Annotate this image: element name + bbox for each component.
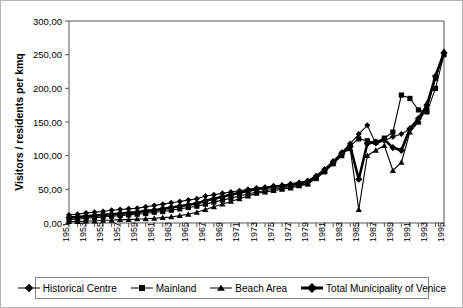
- legend-item-total-municipality: Total Municipality of Venice: [301, 283, 446, 294]
- diamond-marker-icon: [18, 283, 40, 293]
- x-axis-tick-label: 1955: [95, 222, 105, 242]
- x-axis-tick-label: 1989: [385, 222, 395, 242]
- triangle-marker-icon: [210, 283, 232, 293]
- x-axis-tick-label: 1977: [283, 222, 293, 242]
- x-axis-tick-label: 1979: [300, 222, 310, 242]
- x-axis-tick-label: 1993: [419, 222, 429, 242]
- chart-canvas: 0,0050,00100,00150,00200,00250,00300,001…: [1, 1, 463, 308]
- data-point-marker: [399, 92, 404, 97]
- chart-legend: Historical Centre Mainland Beach Area To…: [35, 277, 429, 299]
- legend-item-historical-centre: Historical Centre: [18, 283, 117, 294]
- thick-diamond-marker-icon: [301, 283, 323, 293]
- series-beach-area: [66, 48, 447, 224]
- x-axis-tick-label: 1965: [180, 222, 190, 242]
- y-axis-tick-label: 250,00: [33, 49, 62, 60]
- legend-label: Total Municipality of Venice: [326, 283, 446, 294]
- x-axis-tick-label: 1969: [214, 222, 224, 242]
- square-marker-icon: [131, 283, 153, 293]
- data-point-marker: [390, 130, 395, 135]
- x-axis-tick-label: 1961: [146, 222, 156, 242]
- x-axis-tick-label: 1985: [351, 222, 361, 242]
- x-axis-tick-label: 1951: [61, 222, 71, 242]
- x-axis-tick-label: 1967: [197, 222, 207, 242]
- legend-label: Beach Area: [235, 283, 287, 294]
- x-axis-tick-label: 1991: [402, 222, 412, 242]
- data-point-marker: [416, 107, 421, 112]
- y-axis-tick-label: 50,00: [38, 184, 62, 195]
- series-mainland: [66, 52, 446, 222]
- y-axis-tick-label: 300,00: [33, 16, 62, 27]
- data-point-marker: [398, 159, 404, 165]
- y-axis-tick-label: 200,00: [33, 83, 62, 94]
- data-point-marker: [356, 206, 362, 212]
- x-axis-tick-label: 1973: [249, 222, 259, 242]
- x-axis-tick-label: 1987: [368, 222, 378, 242]
- x-axis-tick-label: 1981: [317, 222, 327, 242]
- chart-figure: 0,0050,00100,00150,00200,00250,00300,001…: [0, 0, 463, 308]
- series-line: [69, 51, 444, 221]
- data-point-marker: [407, 96, 412, 101]
- data-point-marker: [390, 134, 396, 140]
- data-point-marker: [373, 147, 379, 153]
- x-axis-tick-label: 1963: [163, 222, 173, 242]
- data-point-marker: [398, 131, 404, 137]
- y-axis-tick-label: 0,00: [44, 218, 63, 229]
- x-axis-tick-label: 1957: [112, 222, 122, 242]
- y-axis-tick-label: 150,00: [33, 117, 62, 128]
- y-axis-tick-label: 100,00: [33, 150, 62, 161]
- x-axis-tick-label: 1953: [78, 222, 88, 242]
- legend-item-mainland: Mainland: [131, 283, 197, 294]
- legend-item-beach-area: Beach Area: [210, 283, 287, 294]
- y-axis-title: Visitors / residents per kmq: [13, 53, 25, 191]
- x-axis-tick-label: 1995: [436, 222, 446, 242]
- x-axis-tick-label: 1959: [129, 222, 139, 242]
- x-axis-tick-label: 1971: [231, 222, 241, 242]
- legend-label: Historical Centre: [43, 283, 117, 294]
- legend-label: Mainland: [156, 283, 197, 294]
- data-point-marker: [356, 136, 361, 141]
- x-axis-tick-label: 1983: [334, 222, 344, 242]
- x-axis-tick-label: 1975: [266, 222, 276, 242]
- data-point-marker: [355, 176, 362, 183]
